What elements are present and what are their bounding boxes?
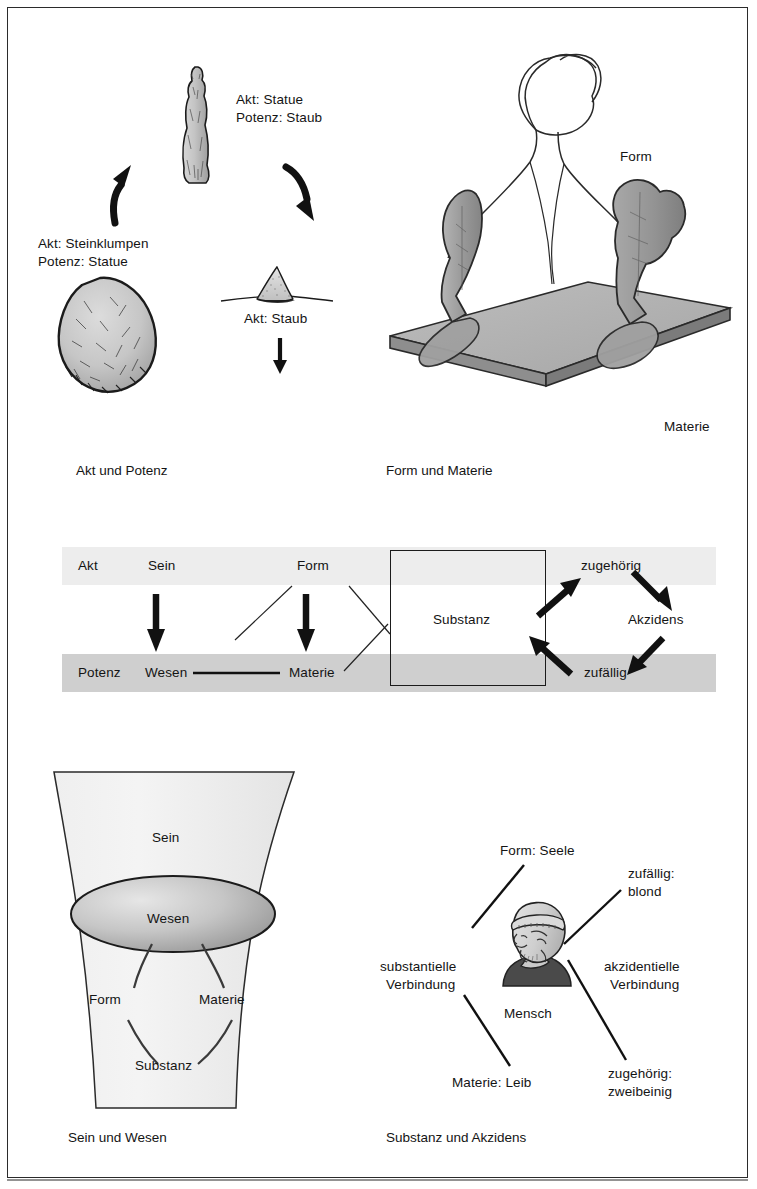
label-potenz-statue: Potenz: Statue <box>38 254 128 270</box>
label-substantielle-verbindung-1: substantielle <box>380 959 456 975</box>
caption-sein-und-wesen: Sein und Wesen <box>68 1130 167 1145</box>
label-zugehoerig-zweibeinig-2: zweibeinig <box>608 1084 672 1100</box>
mensch-head-illustration <box>491 896 581 988</box>
panel-form-und-materie: Form Materie Form und Materie <box>368 8 749 478</box>
caption-substanz-und-akzidens: Substanz und Akzidens <box>386 1130 526 1145</box>
panel-akt-und-potenz: Akt: Statue Potenz: Staub Akt: Steinklum… <box>8 8 368 478</box>
panel-substanz-und-akzidens: Form: Seele zufällig: blond substantiell… <box>368 748 749 1168</box>
figure-page: Akt: Statue Potenz: Staub Akt: Steinklum… <box>0 0 757 1189</box>
label-form: Form <box>620 149 652 165</box>
label-mensch: Mensch <box>504 1006 552 1022</box>
caption-form-und-materie: Form und Materie <box>386 463 493 478</box>
label-wesen-ellipse: Wesen <box>147 911 189 927</box>
label-akzidentielle-verbindung-2: Verbindung <box>610 977 679 993</box>
label-form-funnel: Form <box>89 992 121 1008</box>
label-akt-staub: Akt: Staub <box>244 311 307 327</box>
label-form-seele: Form: Seele <box>500 843 575 859</box>
label-materie-leib: Materie: Leib <box>452 1075 531 1091</box>
arrow-down-curved-icon <box>280 163 330 225</box>
label-zufaellig-blond-1: zufällig: <box>628 866 675 882</box>
figure-frame: Akt: Statue Potenz: Staub Akt: Steinklum… <box>7 7 748 1178</box>
label-substantielle-verbindung-2: Verbindung <box>386 977 455 993</box>
arrow-down-icon <box>270 338 290 376</box>
label-substanz-funnel: Substanz <box>135 1058 192 1074</box>
middle-schema-connectors <box>8 528 749 718</box>
label-akt-statue: Akt: Statue <box>236 92 303 108</box>
form-materie-illustration <box>378 46 738 436</box>
label-materie-funnel: Materie <box>199 992 245 1008</box>
label-zufaellig-blond-2: blond <box>628 884 662 900</box>
label-akt-steinklumpen: Akt: Steinklumpen <box>38 236 149 252</box>
panel-sein-und-wesen: Sein Wesen Form Materie Substanz Sein un… <box>8 748 368 1168</box>
stone-lump-illustration <box>56 275 162 397</box>
label-sein-funnel: Sein <box>152 830 179 846</box>
statue-illustration <box>176 65 220 187</box>
caption-akt-und-potenz: Akt und Potenz <box>76 463 168 478</box>
label-potenz-staub: Potenz: Staub <box>236 110 322 126</box>
label-akzidentielle-verbindung-1: akzidentielle <box>604 959 680 975</box>
label-zugehoerig-zweibeinig-1: zugehörig: <box>608 1066 672 1082</box>
panel-akt-potenz-schema: Akt Sein Form Potenz Wesen Materie Subst… <box>8 528 749 718</box>
dust-pile-illustration <box>213 263 341 311</box>
arrow-up-curved-icon <box>101 163 147 225</box>
label-materie: Materie <box>664 419 710 435</box>
